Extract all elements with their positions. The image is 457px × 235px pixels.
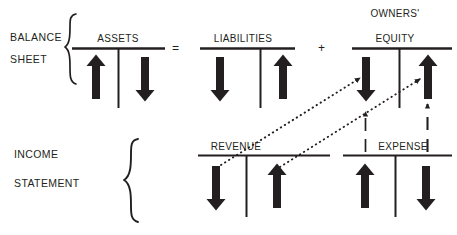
accounting-t-account-diagram: BALANCE SHEET INCOME STATEMENT = + ASSET… — [0, 0, 457, 235]
arrow-expense-credit-down — [417, 166, 436, 211]
arrow-owners-equity-debit-down — [357, 57, 376, 102]
arrow-expense-debit-up — [356, 164, 375, 209]
t-account-liabilities — [200, 49, 295, 109]
arrow-liabilities-credit-up — [274, 55, 293, 100]
arrow-assets-credit-down — [136, 57, 155, 102]
arrow-revenue-credit-up — [268, 164, 287, 209]
diagram-vector-layer — [0, 0, 457, 235]
t-account-assets — [72, 49, 165, 109]
t-account-expense — [343, 156, 452, 218]
arrow-owners-equity-credit-up — [419, 55, 438, 100]
arrow-revenue-debit-down — [207, 166, 226, 211]
t-account-revenue — [198, 156, 330, 218]
connector-revenue-credit-to-equity-credit — [272, 79, 420, 172]
brace-income-statement — [124, 139, 138, 222]
arrow-assets-debit-up — [87, 55, 106, 100]
arrow-liabilities-debit-down — [211, 57, 230, 102]
t-account-owners-equity — [352, 49, 452, 109]
